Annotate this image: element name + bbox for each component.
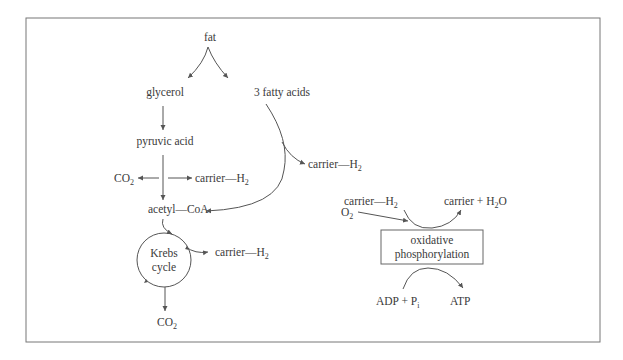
node-carrier-h2o: carrier + H2O xyxy=(444,195,507,210)
krebs-label-line1: Krebs xyxy=(150,247,178,259)
node-carrier-h2-ox: carrier—H2 xyxy=(344,195,398,210)
node-o2: O2 xyxy=(341,206,353,221)
krebs-label-line2: cycle xyxy=(152,261,176,274)
node-fat: fat xyxy=(204,31,217,43)
node-carrier-h2-fatty: carrier—H2 xyxy=(308,158,362,173)
ox-label-line1: oxidative xyxy=(411,234,454,246)
node-carrier-h2-pyruvate: carrier—H2 xyxy=(195,172,249,187)
ox-label-line2: phosphorylation xyxy=(395,248,470,261)
arrow-acetyl-to-krebs xyxy=(162,219,172,234)
node-adp-pi: ADP + Pi xyxy=(376,295,420,310)
node-atp: ATP xyxy=(450,295,470,307)
diagram-frame xyxy=(26,18,600,342)
arrow-carrier-h2-to-h2o xyxy=(404,210,461,228)
node-co2-bottom: CO2 xyxy=(157,316,177,331)
metabolism-diagram: fat glycerol 3 fatty acids pyruvic acid … xyxy=(0,0,623,360)
node-fatty-acids: 3 fatty acids xyxy=(254,86,311,99)
arrow-fat-to-fatty-acids xyxy=(208,47,228,78)
arrow-fat-to-glycerol xyxy=(188,47,208,78)
krebs-cycle-circle xyxy=(137,233,191,287)
node-acetyl-coa: acetyl—CoA xyxy=(148,203,209,216)
arrow-adp-to-atp xyxy=(403,268,463,289)
arrow-o2-in xyxy=(358,212,408,221)
arrow-fatty-acids-to-acetyl xyxy=(206,104,285,211)
node-pyruvic-acid: pyruvic acid xyxy=(136,135,193,148)
node-carrier-h2-krebs: carrier—H2 xyxy=(215,246,269,261)
node-glycerol: glycerol xyxy=(146,86,184,99)
node-co2-left: CO2 xyxy=(114,172,134,187)
